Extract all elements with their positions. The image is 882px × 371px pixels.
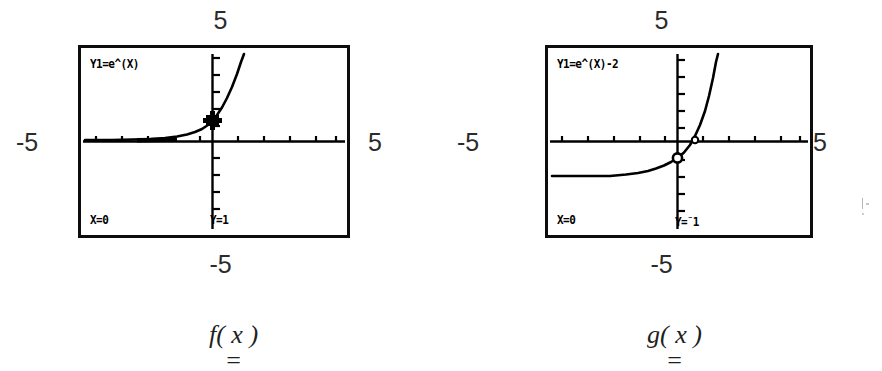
trace-y-value-f: Y=1 [210,214,228,226]
trace-y-value-g: Y=⁻1 [675,214,699,228]
equation-label-g: Y1=e^(X)-2 [557,58,618,70]
equation-label-f: Y1=e^(X) [90,58,139,70]
scan-artifact [861,198,871,216]
graph-plot-g [548,48,810,235]
trace-x-value-g: X=0 [557,214,575,226]
graph-plot-f [81,48,347,235]
scan-artifact-dot2 [862,213,864,215]
caption-f-equals: = [224,346,243,371]
x-intercept-marker [692,137,698,143]
caption-f-arg: ( x ) [216,320,258,349]
window-label-top: 5 [441,8,882,33]
calculator-screen-viewport-g: Y1=e^(X)-2 X=0 Y=⁻1 [548,48,810,235]
window-label-top: 5 [0,8,441,33]
trace-x-value-f: X=0 [90,214,108,226]
caption-g-fnname: g [647,320,660,349]
window-label-bottom: -5 [0,252,441,277]
figure-panel-g: 5 -5 5 -5 [441,0,882,371]
trace-y-prefix-g: Y= [675,216,687,230]
y-axis-ticks [213,58,220,209]
calculator-screen-g: Y1=e^(X)-2 X=0 Y=⁻1 [545,45,813,238]
figure-panel-f: 5 -5 5 -5 [0,0,441,371]
caption-g-equals: = [665,346,684,371]
calculator-screen-f: Y1=e^(X) X=0 Y=1 [78,45,350,238]
curve-exponential-shifted [552,54,718,176]
calculator-screen-viewport-f: Y1=e^(X) X=0 Y=1 [81,48,347,235]
caption-g: g( x ) = ex – 2 [441,296,882,371]
window-label-right: 5 [813,130,873,155]
scan-artifact-bar [862,198,863,209]
window-label-left: -5 [457,130,515,155]
window-label-right: 5 [368,130,428,155]
caption-f: f( x ) = ex [0,296,441,371]
curve-asymptote-segment [137,140,177,141]
trace-cursor-marker [673,153,682,162]
caption-g-arg: ( x ) [660,320,702,349]
trace-y-magnitude-g: 1 [693,216,699,230]
x-axis-ticks [562,136,800,141]
window-label-left: -5 [16,130,74,155]
y-axis-ticks [678,60,685,211]
scan-artifact-dot [866,203,869,205]
window-label-bottom: -5 [441,252,882,277]
